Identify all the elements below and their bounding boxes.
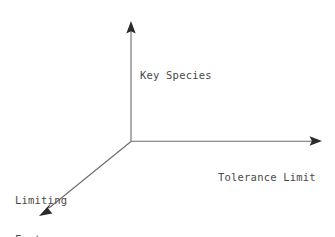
axis-label-tolerance-limit: Tolerance Limit bbox=[218, 145, 316, 210]
axis-label-tolerance-limit-text: Tolerance Limit bbox=[218, 171, 316, 184]
axis-label-limiting-factors-line1: Limiting bbox=[15, 194, 67, 207]
vertical-axis-group bbox=[126, 21, 135, 142]
axis-label-key-species: Key Species bbox=[140, 43, 212, 108]
axis-label-limiting-factors: Limiting Factors bbox=[15, 168, 67, 237]
diagram-canvas: Key Species Tolerance Limit Limiting Fac… bbox=[0, 0, 335, 237]
axis-label-key-species-text: Key Species bbox=[140, 69, 212, 82]
axis-label-limiting-factors-line2: Factors bbox=[15, 233, 67, 237]
